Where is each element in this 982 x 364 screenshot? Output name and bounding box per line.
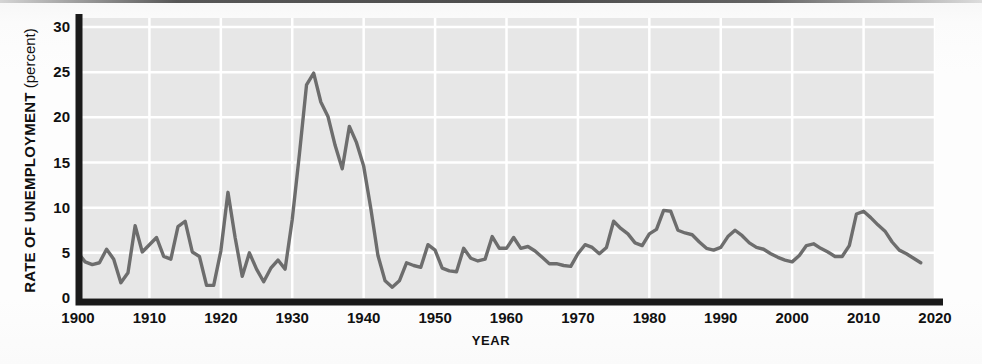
y-tick-label-20: 20 [36, 109, 70, 124]
x-tick-label-2010: 2010 [834, 310, 894, 325]
data-series-layer [78, 73, 921, 287]
x-axis-title: YEAR [0, 333, 982, 348]
y-axis-title: RATE OF UNEMPLOYMENT (percent) [21, 16, 38, 306]
y-tick-label-25: 25 [36, 64, 70, 79]
x-tick-label-1920: 1920 [191, 310, 251, 325]
x-tick-label-1930: 1930 [262, 310, 322, 325]
x-tick-label-1950: 1950 [405, 310, 465, 325]
x-tick-label-1940: 1940 [334, 310, 394, 325]
y-tick-label-30: 30 [36, 19, 70, 34]
y-tick-label-5: 5 [36, 245, 70, 260]
x-tick-label-1990: 1990 [691, 310, 751, 325]
x-tick-label-1980: 1980 [619, 310, 679, 325]
plot-area [78, 18, 935, 298]
x-tick-label-1960: 1960 [477, 310, 537, 325]
unemployment-rate-line-chart: RATE OF UNEMPLOYMENT (percent) 051015202… [0, 0, 982, 364]
x-tick-label-1910: 1910 [119, 310, 179, 325]
y-tick-label-15: 15 [36, 155, 70, 170]
x-tick-label-1900: 1900 [48, 310, 108, 325]
x-tick-label-2000: 2000 [762, 310, 822, 325]
y-axis-title-unit: (percent) [21, 28, 38, 92]
y-axis-title-main: RATE OF UNEMPLOYMENT [21, 92, 38, 292]
x-tick-label-2020: 2020 [905, 310, 965, 325]
x-tick-label-1970: 1970 [548, 310, 608, 325]
plot-svg [78, 18, 935, 298]
y-tick-label-0: 0 [36, 290, 70, 305]
y-tick-label-10: 10 [36, 200, 70, 215]
